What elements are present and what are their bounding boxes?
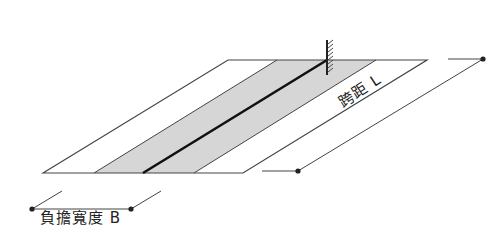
load-width-label: 負擔寬度 B — [40, 206, 121, 227]
beam-line — [143, 60, 327, 173]
